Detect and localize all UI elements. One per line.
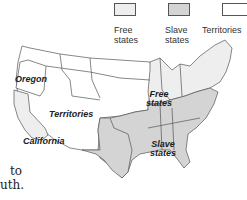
map-label-slave-states: Slave states (150, 140, 176, 158)
map-label-oregon: Oregon (15, 75, 47, 84)
us-map-1850s (0, 0, 247, 200)
map-label-california: California (23, 137, 65, 146)
map-label-territories: Territories (49, 110, 93, 119)
map-label-free-states: Free states (146, 90, 172, 108)
body-text-fragment: to uth. (0, 164, 24, 192)
